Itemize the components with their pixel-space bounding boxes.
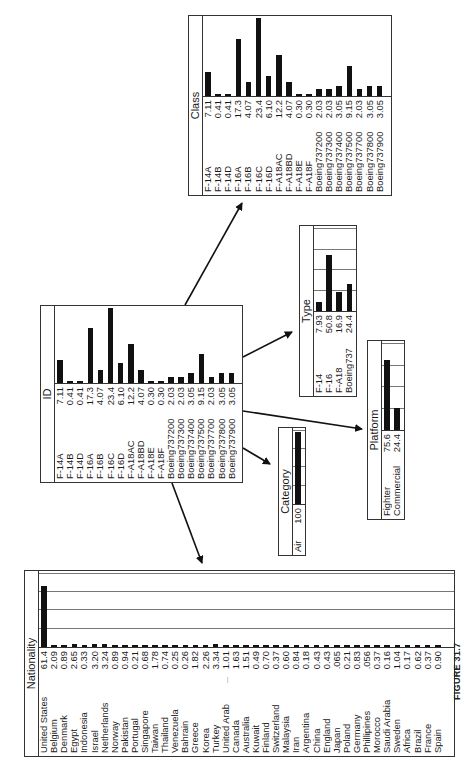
row-label: China — [312, 677, 322, 756]
row-label: Commercial — [392, 460, 402, 519]
arrow-id-to-nationality — [172, 483, 202, 563]
row-label: Boeing737500 — [196, 413, 206, 482]
row-value: 100 — [293, 505, 303, 532]
row-label: F-A18 — [334, 341, 344, 396]
row-label: Boeing737900 — [375, 126, 385, 195]
row-label: Boeing737400 — [186, 413, 196, 482]
row-value: 0.18 — [301, 648, 311, 677]
bar — [286, 83, 292, 97]
nationality-row: Africa0.17 — [402, 648, 412, 756]
bar — [118, 363, 124, 383]
bar — [57, 360, 63, 383]
bar — [316, 89, 322, 96]
bar — [132, 646, 138, 648]
bar — [415, 646, 421, 648]
row-label: Boeing737800 — [365, 126, 375, 195]
row-label: Argentina — [301, 677, 311, 756]
nationality-panel: NationalityUnited States61.4Belgium2.09D… — [24, 570, 455, 757]
id-panel-title: ID — [41, 306, 55, 482]
bar — [51, 645, 57, 647]
class-panel: ClassF-14A7.11F-14B0.41F-14D0.41F-16A17.… — [188, 15, 392, 196]
bar — [377, 86, 383, 96]
row-label: Norway — [110, 677, 120, 756]
bar — [364, 646, 370, 648]
bar — [294, 646, 300, 648]
row-label: Netherlands — [100, 677, 110, 756]
row-label: Canada — [231, 677, 241, 756]
row-label: Boeing737500 — [344, 126, 354, 195]
row-label: Brazil — [413, 677, 423, 756]
row-label: F-16D — [116, 413, 126, 482]
bar — [334, 646, 340, 648]
row-label: F-14D — [223, 126, 233, 195]
bar — [98, 370, 104, 383]
type-row: Boeing73724.4 — [344, 312, 354, 396]
row-label: Korea — [201, 677, 211, 756]
bar — [314, 646, 320, 648]
row-label: Boeing737800 — [217, 413, 227, 482]
row-label: F-16 — [324, 341, 334, 396]
row-label: Africa — [402, 677, 412, 756]
row-label: Poland — [342, 677, 352, 756]
row-label: Pakistan — [120, 677, 130, 756]
class-rows: F-14A7.11F-14B0.41F-14D0.41F-16A17.3F-16… — [203, 97, 391, 195]
row-label: Boeing737200 — [166, 413, 176, 482]
nationality-row: Spain0.90 — [433, 648, 443, 756]
class-row: Boeing7377002.03 — [354, 97, 364, 195]
row-label: Morocco — [372, 677, 382, 756]
row-label: Boeing737900 — [227, 413, 237, 482]
row-value: 0.33 — [79, 648, 89, 677]
row-label: Kuwait — [251, 677, 261, 756]
row-label: Sweden — [392, 677, 402, 756]
row-label: Germany — [352, 677, 362, 756]
bar — [425, 646, 431, 648]
bar — [41, 586, 47, 647]
row-value: 24.4 — [392, 431, 402, 460]
bar — [357, 89, 363, 96]
row-label: F-14B — [213, 126, 223, 195]
bar — [276, 56, 282, 97]
bar — [229, 373, 235, 383]
bar — [172, 646, 178, 648]
bar — [138, 370, 144, 383]
bar — [178, 377, 184, 383]
bar — [266, 76, 272, 96]
nationality-bar-chart — [39, 571, 454, 648]
bar — [324, 646, 330, 648]
row-label: Finland — [261, 677, 271, 756]
bar — [122, 646, 128, 648]
row-label: Taiwan — [150, 677, 160, 756]
bar — [152, 645, 158, 647]
platform-row: Commercial24.4 — [392, 431, 402, 519]
row-label: Australia — [241, 677, 251, 756]
row-label: F-16C — [254, 126, 264, 195]
row-label: F-14 — [314, 341, 324, 396]
bar — [256, 18, 262, 96]
bar — [384, 360, 390, 430]
row-value: 3.05 — [375, 97, 385, 126]
class-panel-title: Class — [189, 16, 203, 195]
bar — [88, 328, 94, 383]
row-value: 1.82 — [190, 648, 200, 677]
bar — [374, 646, 380, 648]
id-rows: F-14A7.11F-14B0.41F-14D0.41F-16A17.3F-16… — [55, 384, 242, 482]
bar — [344, 646, 350, 648]
bar — [209, 377, 215, 383]
type-bar-chart — [314, 226, 356, 312]
id-row: Boeing7377002.03 — [206, 384, 216, 482]
row-label: Saudi Arabia — [382, 677, 392, 756]
row-label: F-A18AC — [126, 413, 136, 482]
bar — [92, 644, 98, 647]
bar — [306, 95, 312, 97]
row-label: Singapore — [140, 677, 150, 756]
row-label: England — [322, 677, 332, 756]
row-label: F-A18F — [156, 413, 166, 482]
row-label: Egypt — [69, 677, 79, 756]
bar — [199, 354, 205, 383]
row-label: Boeing737300 — [176, 413, 186, 482]
bar — [215, 95, 221, 97]
bar — [296, 95, 302, 97]
bar — [354, 646, 360, 648]
bar — [263, 646, 269, 648]
category-row: Air100 — [293, 505, 303, 555]
